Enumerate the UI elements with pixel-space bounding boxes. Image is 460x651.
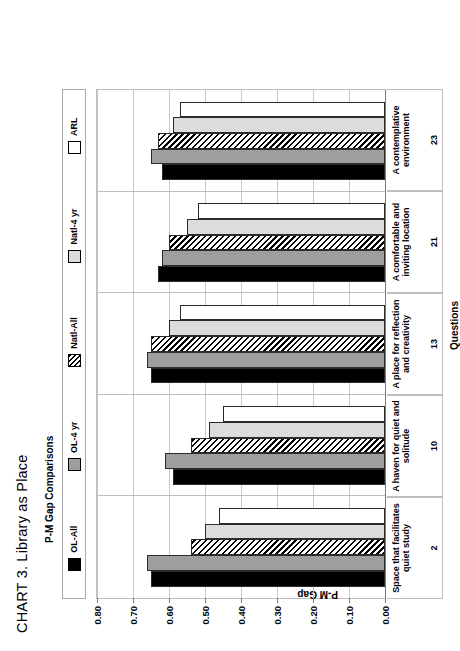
- bar-natl-4-yr[interactable]: [169, 320, 385, 336]
- axis-baseline: [385, 90, 386, 598]
- bar-natl-all[interactable]: [169, 235, 385, 251]
- legend-item-arl[interactable]: ARL: [68, 117, 81, 154]
- light-gray-icon: [68, 250, 81, 263]
- y-tick-label: 0.60: [164, 606, 175, 625]
- bar-group: [97, 496, 385, 598]
- y-tick-label: 0.00: [380, 606, 391, 625]
- plot-area: P-M Gap 0.800.700.600.500.400.300.200.10…: [96, 89, 386, 599]
- bar-groups: [97, 90, 385, 598]
- category-label: A haven for quiet and solitude: [391, 399, 412, 493]
- bar-group: [97, 395, 385, 497]
- category-number: 21: [429, 192, 439, 292]
- x-axis-label: Questions: [449, 0, 460, 651]
- category-cell: Space that facilitates quiet study2: [387, 497, 443, 599]
- bar-ol-all[interactable]: [162, 164, 385, 180]
- category-label: A contemplative environment: [391, 93, 412, 187]
- y-tick-mark: [385, 598, 386, 603]
- y-tick-label: 0.70: [128, 606, 139, 625]
- category-number: 13: [429, 294, 439, 394]
- plot-canvas: 0.800.700.600.500.400.300.200.100.00: [97, 90, 385, 598]
- category-cell: A haven for quiet and solitude10: [387, 395, 443, 497]
- bar-ol-4-yr[interactable]: [162, 250, 385, 266]
- bar-arl[interactable]: [198, 203, 385, 219]
- bar-group: [97, 192, 385, 294]
- legend-item-ol-4-yr[interactable]: OL-4 yr: [68, 421, 81, 471]
- y-tick-mark: [97, 598, 98, 603]
- bar-arl[interactable]: [219, 508, 385, 524]
- bar-ol-all[interactable]: [151, 368, 385, 384]
- legend-item-natl-4-yr[interactable]: Natl-4 yr: [68, 209, 81, 263]
- bar-natl-4-yr[interactable]: [209, 422, 385, 438]
- category-cell: A contemplative environment23: [387, 89, 443, 191]
- legend-item-label: OL-4 yr: [69, 421, 79, 453]
- y-tick-mark: [277, 598, 278, 603]
- bar-ol-4-yr[interactable]: [147, 555, 385, 571]
- category-row: Space that facilitates quiet study2A hav…: [387, 89, 443, 599]
- legend-item-natl-all[interactable]: Natl-All: [68, 317, 81, 367]
- y-tick-mark: [241, 598, 242, 603]
- y-tick-mark: [205, 598, 206, 603]
- y-tick-mark: [313, 598, 314, 603]
- legend-item-ol-all[interactable]: OL-All: [68, 526, 81, 571]
- y-tick-label: 0.80: [92, 606, 103, 625]
- bar-natl-all[interactable]: [158, 133, 385, 149]
- bar-ol-4-yr[interactable]: [151, 149, 385, 165]
- bar-ol-4-yr[interactable]: [147, 352, 385, 368]
- bar-ol-all[interactable]: [151, 571, 385, 587]
- legend-item-label: Natl-4 yr: [69, 209, 79, 245]
- category-number: 2: [429, 498, 439, 598]
- bar-ol-all[interactable]: [173, 469, 385, 485]
- legend-item-label: ARL: [69, 117, 79, 136]
- chart-subtitle: P-M Gap Comparisons: [44, 436, 55, 543]
- bar-arl[interactable]: [180, 102, 385, 118]
- bars-container: [97, 504, 385, 591]
- y-tick-label: 0.30: [272, 606, 283, 625]
- category-label: Space that facilitates quiet study: [391, 501, 412, 595]
- bar-natl-all[interactable]: [191, 438, 385, 454]
- legend-item-label: OL-All: [69, 526, 79, 553]
- bar-arl[interactable]: [223, 406, 385, 422]
- category-number: 23: [429, 90, 439, 190]
- category-label: A place for reflection and creativity: [391, 297, 412, 391]
- bar-natl-all[interactable]: [191, 539, 385, 555]
- bars-container: [97, 199, 385, 286]
- bar-ol-all[interactable]: [158, 266, 385, 282]
- y-tick-mark: [349, 598, 350, 603]
- bar-ol-4-yr[interactable]: [165, 453, 385, 469]
- y-tick-label: 0.50: [200, 606, 211, 625]
- solid-black-icon: [68, 558, 81, 571]
- bar-natl-4-yr[interactable]: [173, 117, 385, 133]
- y-tick-label: 0.40: [236, 606, 247, 625]
- legend-item-label: Natl-All: [69, 317, 79, 349]
- y-tick-label: 0.20: [308, 606, 319, 625]
- bar-arl[interactable]: [180, 305, 385, 321]
- solid-gray-icon: [68, 458, 81, 471]
- bar-natl-all[interactable]: [151, 336, 385, 352]
- chart-title: CHART 3. Library as Place: [14, 454, 30, 633]
- category-number: 10: [429, 396, 439, 496]
- white-icon: [68, 141, 81, 154]
- category-label: A comfortable and inviting location: [391, 195, 412, 289]
- y-tick-label: 0.10: [344, 606, 355, 625]
- category-cell: A comfortable and inviting location21: [387, 191, 443, 293]
- bars-container: [97, 300, 385, 387]
- y-tick-mark: [133, 598, 134, 603]
- y-tick-mark: [169, 598, 170, 603]
- bar-group: [97, 90, 385, 192]
- category-cell: A place for reflection and creativity13: [387, 293, 443, 395]
- bar-group: [97, 293, 385, 395]
- bars-container: [97, 402, 385, 489]
- bar-natl-4-yr[interactable]: [187, 219, 385, 235]
- hatched-icon: [68, 354, 81, 367]
- bar-natl-4-yr[interactable]: [205, 524, 385, 540]
- bars-container: [97, 97, 385, 184]
- chart-legend: OL-AllOL-4 yrNatl-AllNatl-4 yrARL: [62, 89, 86, 599]
